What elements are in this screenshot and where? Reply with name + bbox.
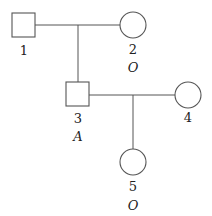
individual-5-female-circle [120,149,146,175]
individual-5-label: 5 [129,179,137,194]
individual-2-label: 2 [129,42,137,57]
individual-5-blood-type: O [128,198,139,213]
individual-2-blood-type: O [128,60,139,75]
individual-2-female-circle [120,12,146,38]
pedigree-diagram: 1 2 O 3 A 4 5 O [0,0,212,216]
individual-4-female-circle [175,82,201,108]
individual-1-label: 1 [20,43,28,58]
individual-3-male-square [66,82,89,106]
individual-1-male-square [12,13,35,37]
individual-3-blood-type: A [72,129,82,144]
individual-3-label: 3 [74,111,82,126]
individual-4-label: 4 [184,110,192,125]
